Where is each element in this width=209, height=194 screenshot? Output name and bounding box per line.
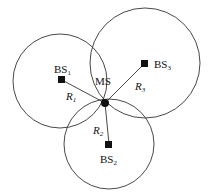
r2-label: R2: [92, 124, 104, 138]
ms-marker: [101, 99, 109, 107]
radius-line-r2: [105, 103, 109, 144]
bs2-marker: [105, 141, 112, 148]
bs3-label: BS3: [154, 58, 171, 72]
r3-label: R3: [134, 80, 146, 94]
ms-label: MS: [95, 75, 111, 87]
triangulation-diagram: BS1 BS2 BS3 MS R1 R2 R3: [0, 0, 209, 194]
bs2-label: BS2: [100, 153, 117, 167]
r1-label: R1: [65, 90, 76, 104]
bs1-label: BS1: [54, 63, 71, 77]
bs3-marker: [141, 60, 148, 67]
bs1-marker: [58, 76, 65, 83]
